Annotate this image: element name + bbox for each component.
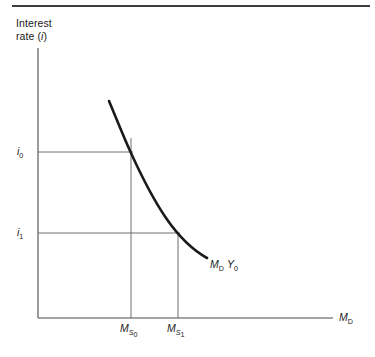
money-market-figure: Interest rate (i) i0 i1 MS0 MS1 MD [0,0,375,357]
curve-label-y-sub: 0 [234,264,238,273]
y-tick-label-i1: i1 [17,226,23,241]
curve-label-y-base: Y [227,258,234,270]
x-tick-label-ms0-base: M [120,322,129,334]
curve-label-md-base: M [210,258,219,270]
money-demand-curve [109,101,207,258]
y-tick-label-i0: i0 [17,145,23,160]
x-tick-label-ms0: MS0 [120,322,138,340]
x-tick-label-ms1-sub-n: 1 [181,331,185,340]
x-axis-label-md: MD [339,311,353,326]
plot-area [0,0,375,357]
curve-label-md-sub: D [219,264,224,273]
x-tick-label-ms0-sub-n: 0 [134,331,138,340]
curve-label-md-y0: MD Y0 [210,258,238,273]
y-tick-label-i1-sub: 1 [19,232,23,241]
y-tick-label-i0-sub: 0 [19,151,23,160]
x-axis-label-md-sub: D [348,317,353,326]
x-axis-label-md-base: M [339,311,348,323]
x-tick-label-ms1: MS1 [167,322,185,340]
x-tick-label-ms1-base: M [167,322,176,334]
